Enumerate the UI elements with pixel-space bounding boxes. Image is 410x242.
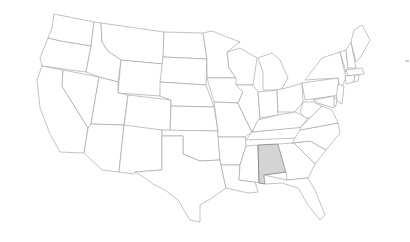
state-new-mexico[interactable] bbox=[119, 125, 162, 174]
state-kansas[interactable] bbox=[170, 106, 218, 131]
state-south-dakota[interactable] bbox=[160, 57, 207, 85]
state-colorado[interactable] bbox=[124, 95, 171, 131]
state-arizona[interactable] bbox=[84, 124, 124, 172]
state-michigan[interactable] bbox=[258, 53, 288, 90]
state-indiana[interactable] bbox=[258, 90, 278, 118]
states-layer bbox=[37, 14, 370, 222]
us-state-map bbox=[0, 0, 410, 242]
state-connecticut[interactable] bbox=[345, 75, 355, 84]
state-florida[interactable] bbox=[264, 175, 325, 220]
state-rhode-island[interactable] bbox=[354, 75, 359, 82]
state-north-dakota[interactable] bbox=[163, 32, 207, 59]
state-wyoming[interactable] bbox=[118, 60, 163, 96]
